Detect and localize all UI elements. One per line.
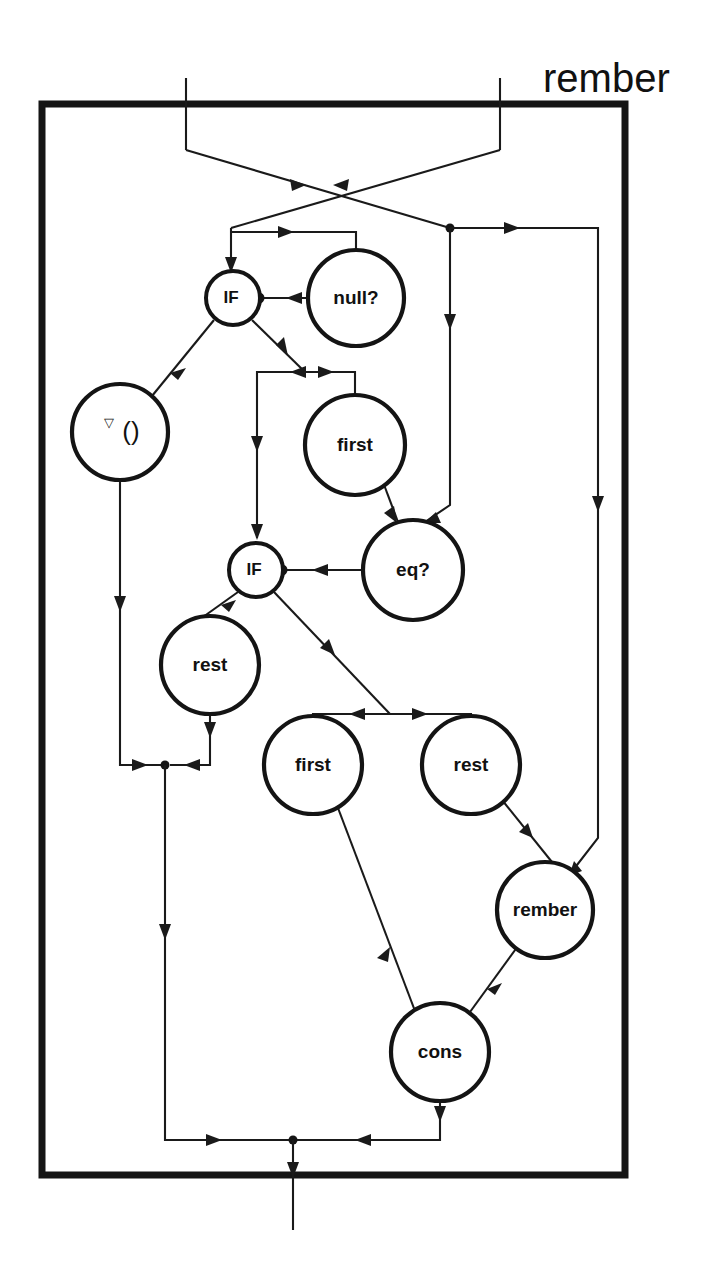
wire-right-branch-to-eq	[425, 228, 450, 522]
arrowhead-feed-right	[318, 366, 334, 378]
node-first-a[interactable]: first	[305, 395, 405, 495]
arrowhead-input-left	[290, 179, 306, 191]
node-null-test-label: null?	[333, 287, 378, 308]
arrowhead-output-bar-left	[206, 1134, 222, 1146]
node-null-test[interactable]: null?	[308, 250, 404, 346]
arrowhead-feed-first-b	[349, 708, 365, 720]
arrowhead-if-outer-test	[286, 292, 302, 304]
node-rember-recursive-label: rember	[513, 899, 578, 920]
arrowhead-feed-left	[290, 366, 306, 378]
node-quote-empty-list-label: ()	[122, 416, 139, 446]
node-if-outer-label: IF	[223, 288, 238, 307]
wire-if-outer-to-quote	[152, 320, 214, 396]
node-first-a-label: first	[337, 434, 374, 455]
node-rember-recursive[interactable]: rember	[497, 862, 593, 958]
node-cons-label: cons	[418, 1041, 462, 1062]
wire-quote-to-merge	[120, 480, 161, 765]
wire-merge-to-output-bar	[165, 765, 293, 1140]
arrowhead-right-branch-down	[592, 496, 604, 512]
wire-first-b-to-cons	[338, 808, 415, 1011]
arrowhead-quote-down	[114, 596, 126, 612]
node-rest-a[interactable]: rest	[161, 616, 259, 714]
node-if-inner-label: IF	[246, 560, 261, 579]
wire-cons-to-output-bar	[297, 1101, 440, 1140]
arrowhead-eq-left-input	[384, 506, 397, 523]
arrowhead-feed-rest-b	[412, 708, 428, 720]
arrowhead-rest-a-down	[204, 722, 216, 738]
node-if-inner[interactable]: IF	[229, 543, 283, 597]
node-quote-empty-list[interactable]: ▽ ()	[72, 384, 168, 480]
node-eq-test-label: eq?	[396, 559, 430, 580]
node-eq-test[interactable]: eq?	[363, 520, 463, 620]
arrowhead-inner-feed	[276, 337, 288, 356]
arrowhead-input-right	[333, 179, 349, 191]
arrowhead-output-bar-right	[355, 1134, 371, 1146]
wire-feed-to-first-a	[305, 372, 355, 395]
arrowhead-null-test-input	[278, 226, 294, 238]
wire-rember-to-cons	[470, 946, 518, 1012]
arrowhead-merge-from-right	[184, 759, 200, 771]
node-cons[interactable]: cons	[391, 1003, 489, 1101]
quote-triangle-icon: ▽	[104, 415, 114, 430]
wire-rest-a-to-merge	[170, 714, 210, 765]
node-first-b-label: first	[295, 754, 332, 775]
wire-input-right-to-left-branch	[231, 150, 500, 228]
arrowhead-if-inner-top	[251, 436, 263, 452]
diagram-canvas: IF null? ▽ () first IF eq?	[0, 0, 728, 1268]
rember-dataflow-diagram: IF null? ▽ () first IF eq?	[0, 0, 728, 1268]
arrowhead-merge-down	[159, 924, 171, 940]
arrowhead-if-inner-test	[312, 564, 328, 576]
wire-to-null-test-input	[231, 232, 356, 250]
wire-feed-to-if-inner	[257, 372, 305, 538]
node-if-outer[interactable]: IF	[206, 271, 260, 325]
node-rest-b[interactable]: rest	[422, 716, 520, 814]
arrowhead-right-branch-across	[504, 222, 520, 234]
arrowhead-right-branch-mid	[444, 314, 456, 330]
arrowhead-if-inner-top-2	[251, 524, 263, 540]
diagram-title: rember	[543, 56, 670, 100]
arrowhead-cons-down	[434, 1106, 446, 1122]
node-first-b[interactable]: first	[264, 716, 362, 814]
arrowhead-merge-from-left	[132, 759, 148, 771]
wire-input-left-to-right-branch	[186, 150, 450, 228]
arrowhead-cons-left-input	[377, 947, 390, 962]
node-rest-a-label: rest	[193, 654, 229, 675]
node-rest-b-label: rest	[454, 754, 490, 775]
node-quote-empty-list-circle	[72, 384, 168, 480]
